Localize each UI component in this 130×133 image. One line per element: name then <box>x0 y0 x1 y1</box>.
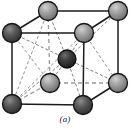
atom-top-front-right <box>75 24 94 43</box>
atom-top-back-right <box>109 2 128 21</box>
crystal-structure-diagram <box>0 0 130 118</box>
atom-bottom-front-left <box>3 95 22 114</box>
atom-top-front-left <box>3 24 22 43</box>
atoms-group <box>3 2 128 115</box>
atom-bottom-back-right <box>109 74 128 93</box>
hidden-left-back-vert <box>48 11 50 83</box>
bcc-unit-cell-figure: (a) <box>0 0 130 133</box>
edge-right-front-vert <box>83 33 84 105</box>
face-diag-top-front-right-to-bottom-front-left <box>12 33 84 104</box>
edge-bottom-front <box>12 104 83 105</box>
figure-caption: (a) <box>0 114 130 124</box>
atom-center <box>58 50 76 68</box>
atom-bottom-front-right <box>74 96 93 115</box>
atom-bottom-back-left <box>41 74 60 93</box>
atom-top-back-left <box>39 2 58 21</box>
